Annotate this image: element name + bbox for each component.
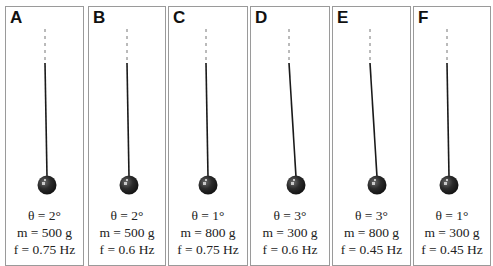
pendulum-panel-f: F θ = 1° m = 300 g f = 0.45 Hz [413, 6, 491, 266]
pendulum-parameters: θ = 3° m = 800 g f = 0.45 Hz [333, 207, 410, 258]
angle-label: θ = 1° [169, 207, 247, 224]
mass-label: m = 500 g [89, 224, 165, 241]
pendulum-panel-a: A θ = 2° m = 500 g f = 0.75 Hz [5, 6, 84, 266]
frequency-label: f = 0.6 Hz [89, 241, 165, 258]
mass-label: m = 500 g [6, 224, 83, 241]
pendulum-parameters: θ = 2° m = 500 g f = 0.6 Hz [89, 207, 165, 258]
pendulum-icon [89, 7, 169, 207]
pendulum-panel-b: B θ = 2° m = 500 g f = 0.6 Hz [88, 6, 166, 266]
angle-label: θ = 2° [89, 207, 165, 224]
pendulum-icon [251, 7, 331, 207]
angle-label: θ = 3° [251, 207, 329, 224]
frequency-label: f = 0.6 Hz [251, 241, 329, 258]
frequency-label: f = 0.75 Hz [169, 241, 247, 258]
angle-label: θ = 2° [6, 207, 83, 224]
frequency-label: f = 0.75 Hz [6, 241, 83, 258]
angle-label: θ = 3° [333, 207, 410, 224]
pendulum-icon [169, 7, 249, 207]
pendulum-parameters: θ = 1° m = 300 g f = 0.45 Hz [414, 207, 490, 258]
mass-label: m = 800 g [333, 224, 410, 241]
pendulum-icon [414, 7, 493, 207]
mass-label: m = 300 g [414, 224, 490, 241]
frequency-label: f = 0.45 Hz [414, 241, 490, 258]
pendulum-parameters: θ = 2° m = 500 g f = 0.75 Hz [6, 207, 83, 258]
pendulum-icon [333, 7, 413, 207]
pendulum-icon [6, 7, 86, 207]
pendulum-parameters: θ = 3° m = 300 g f = 0.6 Hz [251, 207, 329, 258]
mass-label: m = 300 g [251, 224, 329, 241]
pendulum-panel-e: E θ = 3° m = 800 g f = 0.45 Hz [332, 6, 411, 266]
pendulum-panel-c: C θ = 1° m = 800 g f = 0.75 Hz [168, 6, 248, 266]
mass-label: m = 800 g [169, 224, 247, 241]
pendulum-panel-d: D θ = 3° m = 300 g f = 0.6 Hz [250, 6, 330, 266]
angle-label: θ = 1° [414, 207, 490, 224]
frequency-label: f = 0.45 Hz [333, 241, 410, 258]
pendulum-parameters: θ = 1° m = 800 g f = 0.75 Hz [169, 207, 247, 258]
